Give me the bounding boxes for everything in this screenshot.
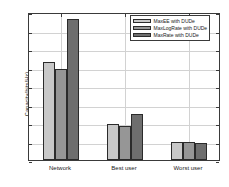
x-tick-label: Network [49,165,71,171]
legend-item: MaxLogRate with DUDe [133,25,207,32]
y-tick-mark-right [216,88,219,89]
y-tick-mark-right [216,144,219,145]
legend-label: MaxLogRate with DUDe [154,26,208,31]
x-tick-mark-top [61,14,62,17]
y-tick-mark-right [216,14,219,15]
bar [171,142,183,160]
bar [131,114,143,160]
legend-swatch [133,33,151,38]
figure: Capacity(bits/Hz) 0246810121416 NetworkB… [0,0,229,187]
y-tick-mark [29,33,32,34]
bar [183,142,195,161]
y-tick-mark-right [216,33,219,34]
y-tick-mark [29,144,32,145]
x-tick-label: Best user [111,165,136,171]
y-tick-mark [29,14,32,15]
bar [119,126,131,160]
y-tick-mark [29,51,32,52]
y-tick-mark-right [216,70,219,71]
y-tick-mark [29,162,32,163]
bar [195,143,207,160]
y-tick-mark-right [216,51,219,52]
x-tick-mark-top [125,14,126,17]
x-tick-label: Worst user [174,165,203,171]
bar [55,69,67,160]
y-tick-mark-right [216,125,219,126]
gridline [29,51,219,52]
y-tick-mark [29,107,32,108]
legend-label: MaxRate with DUDe [154,33,199,38]
legend-item: MaxRate with DUDe [133,32,207,39]
legend-swatch [133,19,151,24]
legend-swatch [133,26,151,31]
y-tick-mark-right [216,107,219,108]
bar [107,124,119,160]
legend-label: MaxEE with DUDe [154,19,195,24]
y-tick-mark [29,88,32,89]
y-tick-mark [29,125,32,126]
chart-legend: MaxEE with DUDeMaxLogRate with DUDeMaxRa… [130,15,210,41]
y-tick-mark [29,70,32,71]
bar [43,62,55,160]
bar [67,19,79,160]
legend-item: MaxEE with DUDe [133,18,207,25]
y-tick-mark-right [216,162,219,163]
